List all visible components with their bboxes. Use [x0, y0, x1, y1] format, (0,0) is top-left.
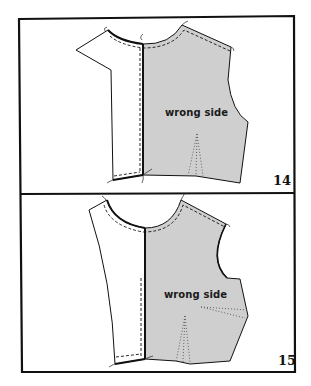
panel-15	[89, 193, 248, 367]
sewing-diagram	[0, 0, 311, 386]
wrong-side-label-15: wrong side	[164, 289, 227, 300]
step-number-14: 14	[273, 173, 291, 188]
bodice-wrong-side	[143, 25, 248, 183]
wrong-side-label-14: wrong side	[165, 107, 228, 118]
bodice-wrong-side	[145, 200, 248, 364]
step-number-15: 15	[278, 353, 296, 368]
facing-piece	[76, 30, 143, 180]
panel-14	[76, 21, 248, 183]
facing-piece	[89, 200, 145, 364]
